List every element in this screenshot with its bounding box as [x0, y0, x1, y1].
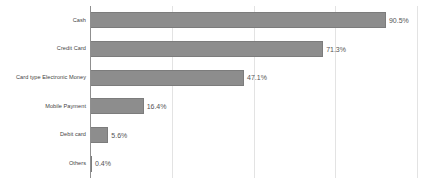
category-label: Others	[69, 161, 86, 167]
bar-row: Debit card5.6%	[90, 127, 424, 143]
bar	[90, 127, 108, 143]
bar-row: Mobile Payment16.4%	[90, 98, 424, 114]
plot-area: Cash90.5%Credit Card71.3%Card type Elect…	[90, 6, 424, 178]
bar	[90, 70, 244, 86]
value-label: 90.5%	[389, 17, 409, 24]
category-label: Credit Card	[57, 46, 86, 52]
value-label: 71.3%	[326, 46, 346, 53]
bar	[90, 12, 386, 28]
category-label: Cash	[73, 18, 86, 24]
bar	[90, 41, 323, 57]
category-label: Debit card	[60, 132, 86, 138]
bar-chart: Cash90.5%Credit Card71.3%Card type Elect…	[0, 0, 432, 195]
value-label: 47.1%	[247, 74, 267, 81]
bar	[90, 98, 144, 114]
category-label: Mobile Payment	[45, 104, 86, 110]
category-label: Card type Electronic Money	[16, 75, 86, 81]
value-label: 16.4%	[147, 103, 167, 110]
value-label: 5.6%	[111, 132, 127, 139]
value-label: 0.4%	[95, 160, 111, 167]
y-axis-line	[90, 6, 91, 178]
bar-row: Credit Card71.3%	[90, 41, 424, 57]
bar-row: Card type Electronic Money47.1%	[90, 70, 424, 86]
bar-row: Cash90.5%	[90, 12, 424, 28]
bar-row: Others0.4%	[90, 156, 424, 172]
bar-rows: Cash90.5%Credit Card71.3%Card type Elect…	[90, 6, 424, 178]
